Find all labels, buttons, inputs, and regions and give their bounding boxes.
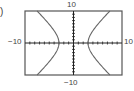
plot-area: [0, 0, 134, 91]
